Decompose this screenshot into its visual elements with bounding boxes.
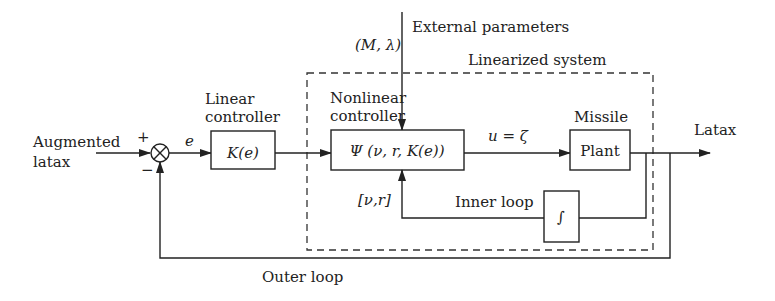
minus-sign: −	[141, 161, 154, 179]
input-label-line1: Augmented	[32, 133, 121, 151]
plus-sign: +	[137, 128, 150, 146]
nonlinear-controller-title-2: controller	[330, 107, 406, 125]
linear-controller-title-2: controller	[205, 108, 281, 126]
linearized-system-label: Linearized system	[468, 51, 606, 69]
output-label: Latax	[694, 121, 737, 139]
outer-loop-label: Outer loop	[262, 268, 343, 286]
error-signal-label: e	[185, 132, 194, 150]
control-signal-label: u = ζ	[488, 127, 529, 145]
integrator-symbol: ∫	[557, 208, 565, 226]
external-parameters-label: External parameters	[412, 18, 569, 36]
inner-loop-label: Inner loop	[455, 193, 534, 211]
linear-controller-title-1: Linear	[205, 90, 255, 108]
nonlinear-controller-title-1: Nonlinear	[330, 89, 407, 107]
summing-junction-icon	[151, 144, 169, 162]
plant-label: Plant	[580, 142, 620, 160]
missile-label: Missile	[574, 108, 628, 126]
nonlinear-controller-expr: Ψ (ν, r, K(e))	[349, 142, 444, 160]
feedback-states-label: [ν,r]	[358, 191, 391, 209]
block-diagram: Linearized system Augmented latax + − e …	[0, 0, 775, 301]
linear-controller-expr: K(e)	[226, 144, 259, 162]
input-label-line2: latax	[33, 153, 71, 171]
external-parameters-symbol: (M, λ)	[355, 36, 401, 54]
